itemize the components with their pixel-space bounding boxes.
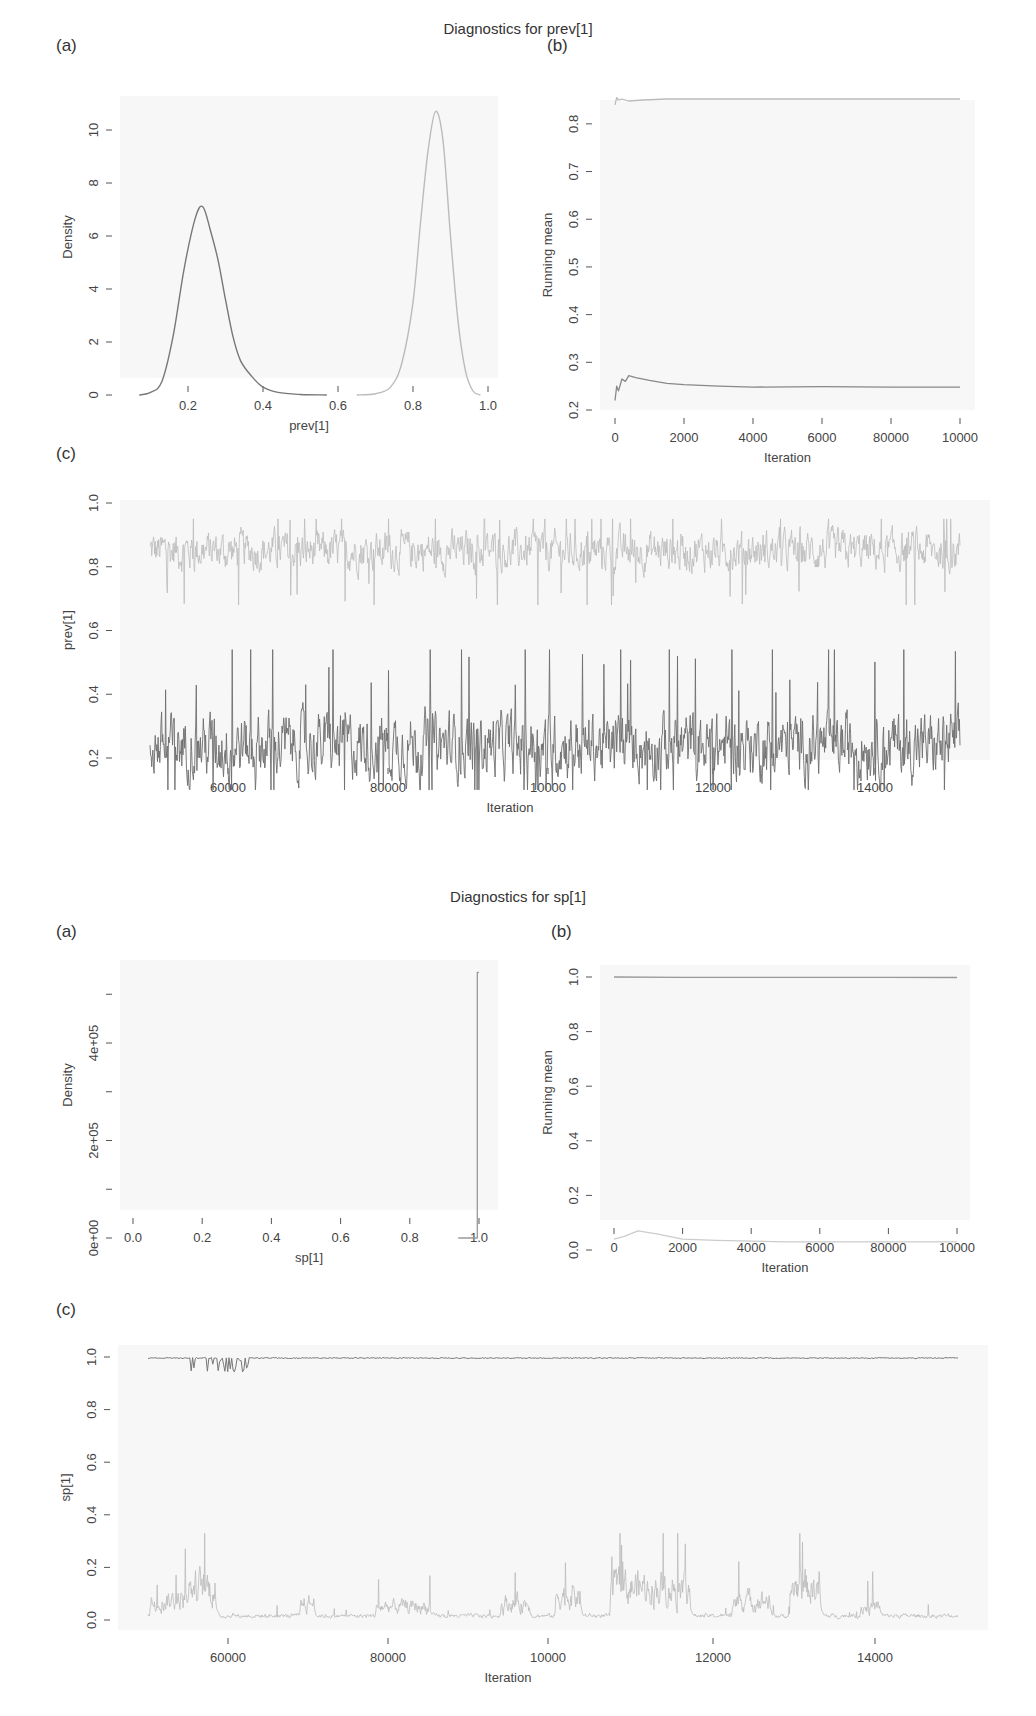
y-tick-label: 0.2 <box>86 749 101 767</box>
y-tick-label: 2 <box>86 338 101 345</box>
y-tick-label: 6 <box>86 232 101 239</box>
x-tick-label: 0 <box>610 1240 617 1255</box>
y-tick-label: 0.4 <box>84 1506 99 1524</box>
x-tick-label: 0.6 <box>332 1230 350 1245</box>
x-tick-label: 4000 <box>737 1240 766 1255</box>
x-axis-label: Iteration <box>487 800 534 815</box>
y-tick-label: 0.0 <box>566 1241 581 1259</box>
x-tick-label: 60000 <box>210 780 246 795</box>
y-tick-label: 0.2 <box>566 401 581 419</box>
y-tick-label: 1.0 <box>84 1348 99 1366</box>
x-tick-label: 6000 <box>808 430 837 445</box>
x-tick-label: 2000 <box>670 430 699 445</box>
y-tick-label: 0.8 <box>566 115 581 133</box>
diagnostics-figure: 02468100.20.40.60.81.0prev[1]Density0.20… <box>0 0 1036 1716</box>
y-tick-label: 0.5 <box>566 258 581 276</box>
x-tick-label: 60000 <box>210 1650 246 1665</box>
x-tick-label: 4000 <box>739 430 768 445</box>
series-line <box>614 977 957 978</box>
y-tick-label: 0.4 <box>566 1132 581 1150</box>
y-tick-label: 0.0 <box>84 1611 99 1629</box>
y-tick-label: 1.0 <box>566 968 581 986</box>
x-tick-label: 0 <box>611 430 618 445</box>
y-axis-label: Running mean <box>540 1050 555 1135</box>
panel-sp1-running-mean: 0.00.20.40.60.81.00200040006000800001000… <box>540 965 975 1275</box>
y-tick-label: 1.0 <box>86 494 101 512</box>
x-tick-label: 0.4 <box>254 398 272 413</box>
x-tick-label: 14000 <box>857 1650 893 1665</box>
x-tick-label: 2000 <box>668 1240 697 1255</box>
x-tick-label: 10000 <box>942 430 978 445</box>
x-axis-label: Iteration <box>485 1670 532 1685</box>
x-tick-label: 0.0 <box>124 1230 142 1245</box>
panel-prev1-density: 02468100.20.40.60.81.0prev[1]Density <box>60 96 498 433</box>
y-tick-label: 2e+05 <box>86 1122 101 1159</box>
x-tick-label: 80000 <box>873 430 909 445</box>
x-axis-label: sp[1] <box>295 1250 323 1265</box>
x-tick-label: 14000 <box>857 780 893 795</box>
panel-prev1-trace: 0.20.40.60.81.06000080000100001200014000… <box>60 494 990 815</box>
y-tick-label: 0.3 <box>566 353 581 371</box>
y-axis-label: Running mean <box>540 213 555 298</box>
y-tick-label: 8 <box>86 179 101 186</box>
y-tick-label: 0.6 <box>566 1077 581 1095</box>
y-tick-label: 4e+05 <box>86 1025 101 1062</box>
y-tick-label: 0.8 <box>84 1401 99 1419</box>
y-tick-label: 0e+00 <box>86 1220 101 1257</box>
y-axis-label: sp[1] <box>58 1473 73 1501</box>
y-tick-label: 0 <box>86 391 101 398</box>
y-tick-label: 0.2 <box>84 1558 99 1576</box>
x-axis-label: prev[1] <box>289 418 329 433</box>
x-tick-label: 12000 <box>695 1650 731 1665</box>
y-tick-label: 0.6 <box>84 1453 99 1471</box>
x-tick-label: 0.8 <box>401 1230 419 1245</box>
y-axis-label: Density <box>60 215 75 259</box>
x-tick-label: 80000 <box>370 1650 406 1665</box>
y-tick-label: 0.4 <box>86 685 101 703</box>
y-tick-label: 0.6 <box>86 621 101 639</box>
x-tick-label: 0.2 <box>179 398 197 413</box>
panel-sp1-trace: 0.00.20.40.60.81.06000080000100001200014… <box>58 1345 988 1685</box>
panel-sp1-density: 0e+002e+054e+050.00.20.40.60.81.0sp[1]De… <box>60 960 498 1265</box>
x-axis-label: Iteration <box>764 450 811 465</box>
x-tick-label: 0.6 <box>329 398 347 413</box>
y-tick-label: 0.7 <box>566 162 581 180</box>
y-tick-label: 0.6 <box>566 210 581 228</box>
x-tick-label: 0.4 <box>262 1230 280 1245</box>
x-tick-label: 10000 <box>530 1650 566 1665</box>
y-tick-label: 0.8 <box>566 1023 581 1041</box>
panel-prev1-running-mean: 0.20.30.40.50.60.70.80200040006000800001… <box>540 98 978 465</box>
y-axis-label: prev[1] <box>60 610 75 650</box>
y-axis-label: Density <box>60 1063 75 1107</box>
y-tick-label: 0.8 <box>86 558 101 576</box>
y-tick-label: 4 <box>86 285 101 292</box>
y-tick-label: 10 <box>86 123 101 137</box>
y-tick-label: 0.4 <box>566 306 581 324</box>
x-tick-label: 1.0 <box>479 398 497 413</box>
x-tick-label: 0.8 <box>404 398 422 413</box>
x-axis-label: Iteration <box>762 1260 809 1275</box>
x-tick-label: 0.2 <box>193 1230 211 1245</box>
y-tick-label: 0.2 <box>566 1186 581 1204</box>
